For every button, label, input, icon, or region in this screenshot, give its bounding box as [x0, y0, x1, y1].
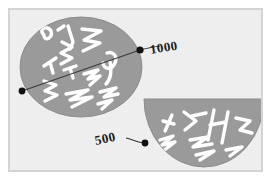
diagram-stage: 1000 500	[0, 0, 271, 180]
ellipse-upper-left	[20, 17, 142, 117]
diagram-canvas	[0, 0, 271, 180]
marker-lower[interactable]	[142, 140, 149, 147]
half-ellipse-lower-right	[144, 99, 264, 167]
marker-left[interactable]	[19, 88, 26, 95]
marker-top-right[interactable]	[136, 46, 143, 53]
